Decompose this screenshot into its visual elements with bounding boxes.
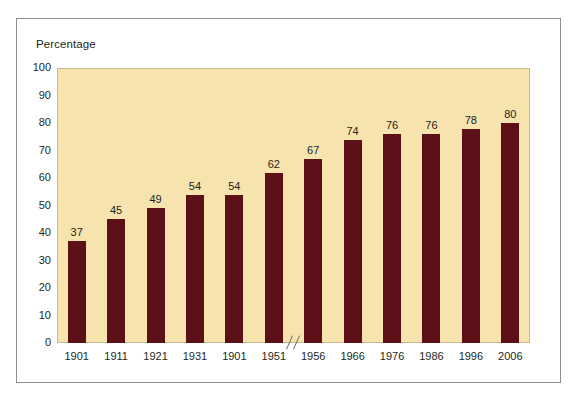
bar-group: 54 — [225, 68, 243, 343]
x-axis-tick-label: 1901 — [55, 350, 99, 362]
x-axis-tick-label: 2006 — [488, 350, 532, 362]
bar-value-label: 37 — [58, 226, 96, 238]
bar — [383, 134, 401, 343]
bar-group: 54 — [186, 68, 204, 343]
bar-value-label: 80 — [491, 108, 529, 120]
bar-value-label: 74 — [334, 125, 372, 137]
y-axis-title: Percentage — [36, 38, 96, 50]
bar-value-label: 45 — [97, 204, 135, 216]
x-axis-tick-label: 1976 — [370, 350, 414, 362]
bar-group: 37 — [68, 68, 86, 343]
bar-group: 76 — [422, 68, 440, 343]
bar-value-label: 54 — [215, 180, 253, 192]
bar — [147, 208, 165, 343]
x-axis-tick-label: 1901 — [212, 350, 256, 362]
bar-group: 76 — [383, 68, 401, 343]
bar-group: 74 — [344, 68, 362, 343]
bar-group: 80 — [501, 68, 519, 343]
bar — [422, 134, 440, 343]
x-axis-tick-label: 1951 — [252, 350, 296, 362]
x-axis-tick-label: 1956 — [291, 350, 335, 362]
x-axis-tick-label: 1931 — [173, 350, 217, 362]
bar — [462, 129, 480, 344]
axis-break-icon — [284, 335, 306, 351]
x-axis-tick-labels: 1901191119211931190119511956196619761986… — [57, 350, 530, 370]
bar — [225, 195, 243, 344]
x-axis-tick-label: 1996 — [449, 350, 493, 362]
bar-value-label: 76 — [412, 119, 450, 131]
bar-group: 62 — [265, 68, 283, 343]
bar — [304, 159, 322, 343]
bar — [265, 173, 283, 344]
bar — [501, 123, 519, 343]
bar — [344, 140, 362, 344]
x-axis-tick-label: 1921 — [134, 350, 178, 362]
bar-group: 45 — [107, 68, 125, 343]
bar-value-label: 76 — [373, 119, 411, 131]
bars-layer: 374549545462677476767880 — [57, 68, 530, 343]
bar-value-label: 62 — [255, 158, 293, 170]
x-axis-tick-label: 1966 — [331, 350, 375, 362]
bar-group: 67 — [304, 68, 322, 343]
bar-group: 49 — [147, 68, 165, 343]
bar-value-label: 78 — [452, 114, 490, 126]
x-axis-tick-label: 1911 — [94, 350, 138, 362]
x-axis-tick-label: 1986 — [409, 350, 453, 362]
bar — [186, 195, 204, 344]
bar-value-label: 54 — [176, 180, 214, 192]
bar — [107, 219, 125, 343]
bar-value-label: 67 — [294, 144, 332, 156]
bar-value-label: 49 — [137, 193, 175, 205]
bar-group: 78 — [462, 68, 480, 343]
bar — [68, 241, 86, 343]
chart-figure: Percentage 1009080706050403020100 374549… — [0, 0, 579, 399]
